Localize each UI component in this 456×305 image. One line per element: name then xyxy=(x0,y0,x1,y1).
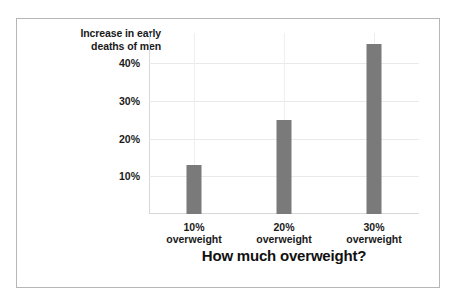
plot-area: 10%20%30%40% 10%overweight20%overweight3… xyxy=(149,33,419,214)
y-axis-title: Increase in early deaths of men xyxy=(31,27,161,52)
x-tick-label-0: 10%overweight xyxy=(166,221,221,245)
x-tick-label-0-line-1: overweight xyxy=(166,233,221,245)
x-tick-label-0-line-0: 10% xyxy=(166,221,221,233)
y-axis-line xyxy=(149,33,150,214)
x-tick-label-1-line-0: 20% xyxy=(256,221,311,233)
x-tick-label-2: 30%overweight xyxy=(346,221,401,245)
y-tick-label-10%: 10% xyxy=(119,170,140,182)
y-axis-title-line-1: Increase in early xyxy=(31,27,161,40)
bar-0 xyxy=(187,165,202,214)
y-tick-label-20%: 20% xyxy=(119,133,140,145)
y-axis-title-line-2: deaths of men xyxy=(31,40,161,53)
chart-screenshot: Increase in early deaths of men 10%20%30… xyxy=(0,0,456,305)
bar-2 xyxy=(367,44,382,214)
chart-frame: Increase in early deaths of men 10%20%30… xyxy=(16,18,440,288)
y-tick-label-40%: 40% xyxy=(119,57,140,69)
x-axis-title: How much overweight? xyxy=(149,247,419,264)
y-tick-label-30%: 30% xyxy=(119,95,140,107)
bar-1 xyxy=(277,120,292,214)
x-tick-label-1: 20%overweight xyxy=(256,221,311,245)
x-tick-label-2-line-0: 30% xyxy=(346,221,401,233)
bar-chart: Increase in early deaths of men 10%20%30… xyxy=(17,19,439,287)
x-tick-label-2-line-1: overweight xyxy=(346,233,401,245)
x-tick-label-1-line-1: overweight xyxy=(256,233,311,245)
